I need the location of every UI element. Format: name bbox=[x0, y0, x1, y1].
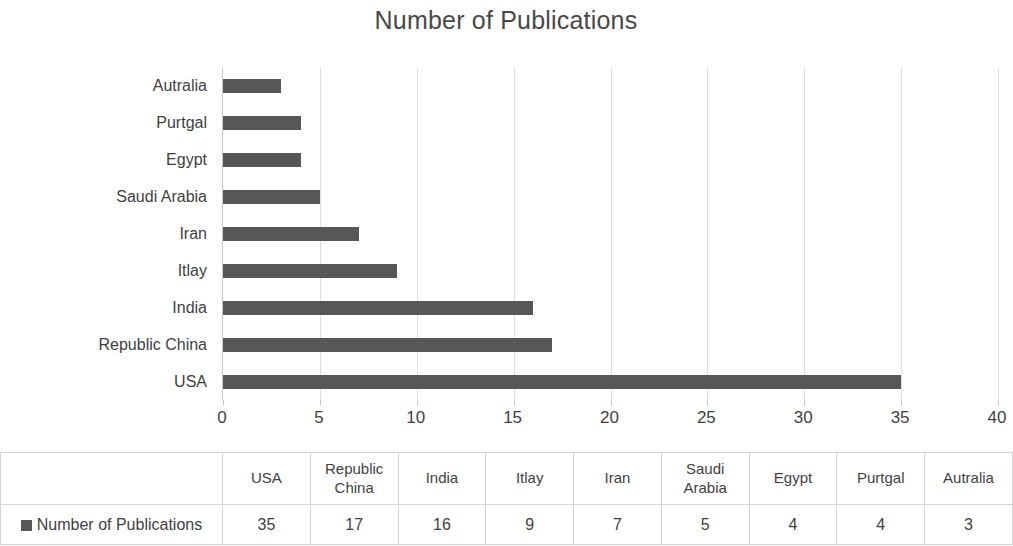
data-table-header-row: USARepublic ChinaIndiaItlayIranSaudi Ara… bbox=[1, 453, 1013, 505]
data-table-column-header: Itlay bbox=[486, 453, 574, 505]
bar bbox=[223, 116, 301, 130]
y-axis-category-label: India bbox=[0, 299, 215, 317]
bar bbox=[223, 375, 901, 389]
x-axis-tick bbox=[611, 400, 612, 406]
x-axis-tick-labels: 0510152025303540 bbox=[0, 408, 1012, 438]
y-axis-category-label: Saudi Arabia bbox=[0, 188, 215, 206]
y-axis-category-label: Itlay bbox=[0, 262, 215, 280]
bar bbox=[223, 301, 533, 315]
y-axis-category-label: Purtgal bbox=[0, 114, 215, 132]
data-table-value-cell: 4 bbox=[749, 505, 837, 545]
x-axis-tick bbox=[998, 400, 999, 406]
data-table-column-header: Republic China bbox=[310, 453, 398, 505]
x-axis-tick-label: 35 bbox=[891, 408, 910, 428]
x-axis-tick-label: 30 bbox=[794, 408, 813, 428]
x-axis-tick-label: 40 bbox=[988, 408, 1007, 428]
y-axis-category-label: Iran bbox=[0, 225, 215, 243]
x-axis-tick bbox=[223, 400, 224, 406]
plot-area bbox=[222, 68, 997, 400]
gridline bbox=[901, 68, 902, 400]
data-table-column-header: Autralia bbox=[925, 453, 1013, 505]
y-axis-category-label: Egypt bbox=[0, 151, 215, 169]
x-axis-tick bbox=[804, 400, 805, 406]
bar bbox=[223, 153, 301, 167]
y-axis-category-label: USA bbox=[0, 373, 215, 391]
x-axis-tick bbox=[417, 400, 418, 406]
data-table-body: USARepublic ChinaIndiaItlayIranSaudi Ara… bbox=[1, 453, 1013, 545]
x-axis-tick-label: 0 bbox=[217, 408, 226, 428]
data-table-value-cell: 17 bbox=[310, 505, 398, 545]
bar bbox=[223, 338, 552, 352]
gridline bbox=[804, 68, 805, 400]
data-table-value-cell: 3 bbox=[925, 505, 1013, 545]
x-axis-tick bbox=[901, 400, 902, 406]
gridline bbox=[611, 68, 612, 400]
data-table-value-cell: 35 bbox=[223, 505, 311, 545]
bar bbox=[223, 79, 281, 93]
gridline bbox=[998, 68, 999, 400]
data-table-column-header: Iran bbox=[574, 453, 662, 505]
data-table-value-row: Number of Publications351716975443 bbox=[1, 505, 1013, 545]
y-axis-category-label: Republic China bbox=[0, 336, 215, 354]
x-axis-tick bbox=[514, 400, 515, 406]
data-table-value-cell: 7 bbox=[574, 505, 662, 545]
data-table-value-cell: 16 bbox=[398, 505, 486, 545]
data-table-column-header: USA bbox=[223, 453, 311, 505]
x-axis-tick bbox=[320, 400, 321, 406]
legend-swatch-icon bbox=[21, 520, 32, 531]
data-table-column-header: Purtgal bbox=[837, 453, 925, 505]
gridline bbox=[707, 68, 708, 400]
data-table-corner-cell bbox=[1, 453, 223, 505]
bar bbox=[223, 227, 359, 241]
series-legend-label-text: Number of Publications bbox=[37, 516, 202, 533]
bar bbox=[223, 190, 320, 204]
chart-title: Number of Publications bbox=[0, 6, 1012, 35]
y-axis-category-labels: USARepublic ChinaIndiaItlayIranSaudi Ara… bbox=[0, 68, 215, 400]
x-axis-tick-label: 20 bbox=[600, 408, 619, 428]
x-axis-tick-label: 5 bbox=[314, 408, 323, 428]
data-table-column-header: India bbox=[398, 453, 486, 505]
chart-data-table: USARepublic ChinaIndiaItlayIranSaudi Ara… bbox=[0, 452, 1013, 545]
x-axis-tick-label: 10 bbox=[406, 408, 425, 428]
x-axis-tick-label: 15 bbox=[503, 408, 522, 428]
bar bbox=[223, 264, 397, 278]
series-legend-label-cell: Number of Publications bbox=[1, 505, 223, 545]
data-table-value-cell: 4 bbox=[837, 505, 925, 545]
x-axis-tick-label: 25 bbox=[697, 408, 716, 428]
data-table-value-cell: 9 bbox=[486, 505, 574, 545]
chart-plot-region: USARepublic ChinaIndiaItlayIranSaudi Ara… bbox=[0, 60, 1012, 445]
data-table-value-cell: 5 bbox=[661, 505, 749, 545]
data-table-column-header: Egypt bbox=[749, 453, 837, 505]
data-table-column-header: Saudi Arabia bbox=[661, 453, 749, 505]
y-axis-category-label: Autralia bbox=[0, 77, 215, 95]
x-axis-tick bbox=[707, 400, 708, 406]
